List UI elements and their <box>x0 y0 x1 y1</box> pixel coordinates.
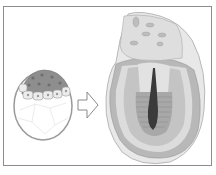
arrow-right-icon <box>78 92 98 118</box>
early-embryo <box>14 70 72 140</box>
embryo-diagram <box>0 0 216 175</box>
developed-embryo-section <box>106 12 205 163</box>
